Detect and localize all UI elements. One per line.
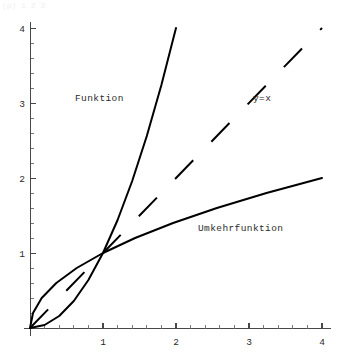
y-tick-label: 4 bbox=[19, 24, 25, 35]
scan-artifact-text: (p) 1 2 3 bbox=[2, 1, 45, 10]
x-tick-label: 4 bbox=[319, 337, 325, 348]
x-tick-label: 1 bbox=[100, 337, 106, 348]
function-inverse-plot: 1 2 3 4 bbox=[0, 0, 341, 363]
label-y-equals-x: y=x bbox=[253, 93, 271, 104]
label-umkehrfunktion: Umkehrfunktion bbox=[198, 223, 283, 234]
y-tick-label: 2 bbox=[19, 174, 25, 185]
x-tick-label: 2 bbox=[173, 337, 179, 348]
y-tick-label: 3 bbox=[19, 99, 25, 110]
y-tick-label: 1 bbox=[19, 249, 25, 260]
plot-figure: 1 2 3 4 bbox=[0, 0, 341, 363]
label-funktion: Funktion bbox=[75, 93, 124, 104]
x-tick-label: 3 bbox=[246, 337, 252, 348]
plot-background bbox=[0, 0, 341, 363]
